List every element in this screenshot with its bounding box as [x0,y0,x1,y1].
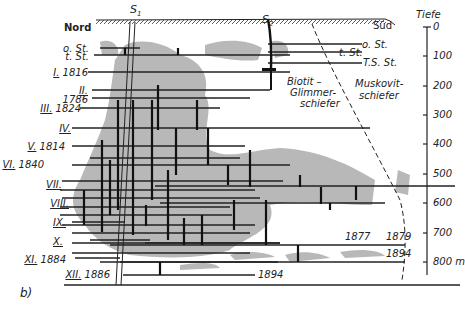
depth-tick: 500 [433,169,452,179]
south-label: Süd [373,21,392,31]
depth-tick: 300 [433,110,452,120]
level-label-left: IV. [59,124,71,134]
level-label-left: I. 1816 [53,68,88,78]
level-label-right: t. St. [339,48,363,58]
year-annotation: 1877 [345,232,370,242]
shaft-s2-label: S2 [262,15,273,29]
depth-title: Tiefe [416,10,441,20]
level-label-left: X. [53,237,63,247]
depth-tick: 600 [433,198,452,208]
level-label-left: VII. [46,180,62,190]
level-label-left: XII. 1886 [65,270,110,280]
level-label-right: T.S. St. [363,58,397,68]
level-label-left: V. 1814 [27,142,65,152]
depth-tick: 400 [433,139,452,149]
level-label-left: t. St. [65,52,89,62]
depth-tick: 800 m [433,257,465,267]
level-label-left: VI. 1840 [2,160,44,170]
rock-label-muskovit: schiefer [359,91,399,101]
rock-label-biotit: Glimmer- [290,88,336,98]
rock-label-biotit: schiefer [300,99,340,109]
level-label-left: VIII. [50,199,69,209]
level-label-left: IX. [53,218,66,228]
level-label-right: o. St. [362,40,388,50]
year-annotation: 1879 [386,232,411,242]
level-label-left: III. 1824 [40,104,81,114]
panel-label: b) [20,288,32,298]
depth-tick: 200 [433,81,452,91]
year-annotation: 1894 [386,249,411,259]
depth-tick: 0 [433,22,439,32]
north-label: Nord [64,23,91,33]
depth-tick: 100 [433,51,452,61]
level-label-left: XI. 1884 [24,255,66,265]
depth-tick: 700 [433,228,452,238]
year-annotation: 1894 [258,270,283,280]
rock-label-biotit: Biotit – [287,77,322,87]
rock-label-muskovit: Muskovit- [355,79,403,89]
shaft-s1-label: S1 [130,5,141,19]
